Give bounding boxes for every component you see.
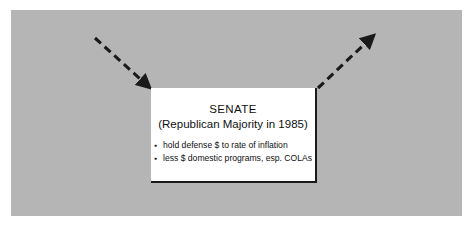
callout-subtitle: (Republican Majority in 1985) (151, 117, 315, 131)
figure-canvas: SENATE (Republican Majority in 1985) hol… (0, 0, 473, 227)
senate-callout-box: SENATE (Republican Majority in 1985) hol… (151, 88, 317, 183)
list-item: less $ domestic programs, esp. COLAs (154, 152, 312, 165)
list-item: hold defense $ to rate of inflation (154, 139, 312, 152)
callout-title: SENATE (151, 102, 315, 116)
callout-bullet-list: hold defense $ to rate of inflation less… (154, 139, 312, 166)
